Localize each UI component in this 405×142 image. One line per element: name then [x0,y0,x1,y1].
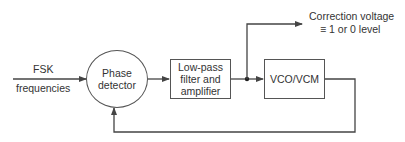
vco-vcm-block: VCO/VCM [264,59,325,99]
phase-detector-label-1: Phase [102,67,132,79]
low-pass-filter-block: Low-pass filter and amplifier [170,59,231,99]
filter-label-1: Low-pass [178,61,223,73]
filter-label-2: filter and [180,73,220,85]
vco-label: VCO/VCM [270,73,319,85]
filter-label-3: amplifier [181,85,221,97]
correction-voltage-label: Correction voltage [309,10,394,22]
correction-level-label: ≡ 1 or 0 level [320,23,380,35]
phase-detector-node: Phase detector [86,50,148,108]
input-label-fsk: FSK [33,63,53,75]
input-label-frequencies: frequencies [16,82,70,94]
phase-detector-label-2: detector [98,79,136,91]
